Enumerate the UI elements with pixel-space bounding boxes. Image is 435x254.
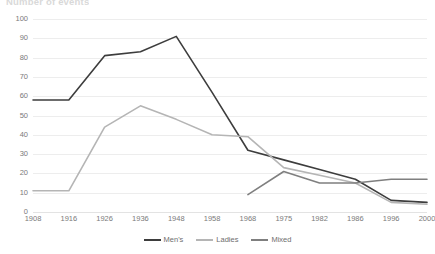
- plot-area: [33, 19, 427, 212]
- y-tick-label: 80: [20, 54, 28, 62]
- series-layer: [33, 19, 427, 212]
- x-tick-label: 1908: [25, 215, 42, 223]
- chart-title: Number of events: [6, 0, 89, 8]
- x-tick-label: 1936: [132, 215, 149, 223]
- y-axis-labels: 0102030405060708090100: [0, 19, 28, 212]
- y-tick-label: 50: [20, 112, 28, 120]
- legend-item-ladies[interactable]: Ladies: [196, 236, 238, 244]
- chart-legend: Men'sLadiesMixed: [0, 236, 435, 244]
- series-line-men-s: [33, 36, 427, 202]
- legend-swatch-ladies: [196, 239, 213, 242]
- x-tick-label: 1968: [240, 215, 257, 223]
- y-tick-label: 100: [15, 15, 28, 23]
- legend-label-ladies: Ladies: [216, 236, 238, 244]
- legend-label-men-s: Men's: [164, 236, 184, 244]
- gridline-0: [33, 212, 427, 213]
- y-tick-label: 10: [20, 189, 28, 197]
- x-tick-label: 2000: [419, 215, 435, 223]
- x-tick-label: 1975: [275, 215, 292, 223]
- legend-item-men-s[interactable]: Men's: [144, 236, 184, 244]
- legend-swatch-mixed: [251, 239, 268, 242]
- legend-label-mixed: Mixed: [271, 236, 291, 244]
- y-tick-label: 70: [20, 73, 28, 81]
- x-tick-label: 1982: [311, 215, 328, 223]
- legend-swatch-men-s: [144, 239, 161, 242]
- x-axis-labels: 1908191619261936194819581968197519821986…: [33, 215, 427, 229]
- y-tick-label: 90: [20, 35, 28, 43]
- x-tick-label: 1916: [60, 215, 77, 223]
- y-tick-label: 60: [20, 92, 28, 100]
- line-chart: Number of events 0102030405060708090100 …: [0, 0, 435, 254]
- y-tick-label: 40: [20, 131, 28, 139]
- x-tick-label: 1996: [383, 215, 400, 223]
- x-tick-label: 1986: [347, 215, 364, 223]
- y-tick-label: 30: [20, 150, 28, 158]
- y-tick-label: 20: [20, 170, 28, 178]
- x-tick-label: 1958: [204, 215, 221, 223]
- x-tick-label: 1948: [168, 215, 185, 223]
- legend-item-mixed[interactable]: Mixed: [251, 236, 291, 244]
- x-tick-label: 1926: [96, 215, 113, 223]
